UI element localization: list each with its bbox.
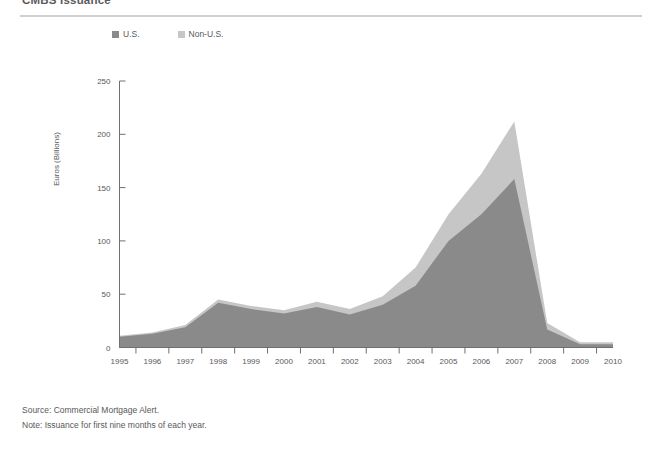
x-tick-label: 2005	[440, 357, 458, 366]
x-tick-label: 1999	[242, 357, 260, 366]
footnote-note: Note: Issuance for first nine months of …	[22, 418, 207, 433]
x-tick-label: 1998	[209, 357, 227, 366]
x-tick-label: 2009	[571, 357, 589, 366]
y-tick-labels-group: 050100150200250	[97, 77, 111, 353]
x-tick-label: 1996	[144, 357, 162, 366]
footnote-source: Source: Commercial Mortgage Alert.	[22, 403, 207, 418]
area-series-us	[120, 179, 614, 347]
x-tick-label: 2006	[473, 357, 491, 366]
y-tick-label: 100	[97, 237, 111, 246]
chart-plot-area: 050100150200250 199519961997199819992000…	[0, 0, 662, 452]
y-tick-label: 250	[97, 77, 111, 86]
x-tick-label: 2002	[341, 357, 359, 366]
x-tick-label: 2001	[308, 357, 326, 366]
x-tick-label: 2010	[604, 357, 622, 366]
chart-page: CMBS Issuance U.S. Non-U.S. 050100150200…	[0, 0, 662, 452]
y-tick-label: 50	[102, 290, 111, 299]
stacked-areas-group	[120, 122, 614, 348]
y-tick-label: 200	[97, 130, 111, 139]
x-tick-label: 2000	[275, 357, 293, 366]
x-tick-label: 2004	[407, 357, 425, 366]
x-tick-label: 1997	[176, 357, 194, 366]
x-tick-label: 1995	[111, 357, 129, 366]
chart-canvas: 050100150200250 199519961997199819992000…	[0, 0, 662, 452]
y-tick-label: 0	[106, 344, 111, 353]
x-tick-labels-group: 1995199619971998199920002001200220032004…	[111, 348, 623, 366]
y-axis-title: Euros (Billions)	[52, 174, 61, 186]
x-tick-label: 2003	[374, 357, 392, 366]
x-tick-label: 2007	[505, 357, 523, 366]
chart-footnotes: Source: Commercial Mortgage Alert. Note:…	[22, 403, 207, 433]
x-tick-label: 2008	[538, 357, 556, 366]
y-tick-label: 150	[97, 184, 111, 193]
